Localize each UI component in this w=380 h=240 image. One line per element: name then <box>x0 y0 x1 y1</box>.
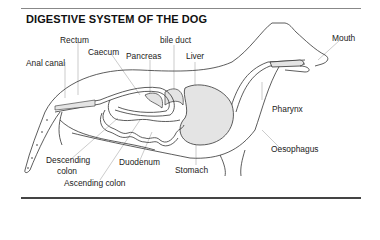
label-pancreas: Pancreas <box>126 51 161 61</box>
label-descending-colon-line1: Descending <box>46 155 90 165</box>
label-descending-colon-line2: colon <box>57 166 77 176</box>
label-liver: Liver <box>186 51 204 61</box>
pancreas <box>145 93 163 108</box>
label-stomach: Stomach <box>175 165 208 175</box>
label-rectum: Rectum <box>60 35 89 45</box>
label-duodenum: Duodenum <box>119 157 160 167</box>
label-pharynx: Pharynx <box>272 104 303 114</box>
label-caecum: Caecum <box>88 47 119 57</box>
label-bile-duct: bile duct <box>160 35 191 45</box>
label-mouth: Mouth <box>332 33 355 43</box>
label-oesophagus: Oesophagus <box>271 144 319 154</box>
stomach <box>180 85 233 145</box>
label-ascending-colon: Ascending colon <box>64 178 125 188</box>
bottom-rule <box>21 197 361 199</box>
tail-marks <box>27 119 48 169</box>
label-anal-canal: Anal canal <box>26 58 65 68</box>
